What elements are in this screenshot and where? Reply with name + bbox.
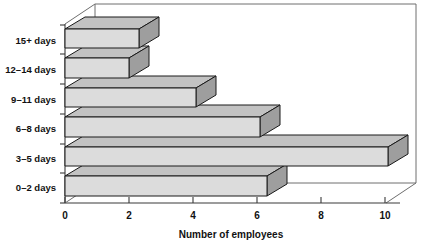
bar-3-5-days bbox=[65, 135, 408, 166]
x-axis-labels: 0 2 4 6 8 10 bbox=[62, 210, 391, 221]
bar-front-face bbox=[65, 147, 388, 166]
x-tick-label-0: 0 bbox=[62, 210, 68, 221]
category-label-3-5: 3–5 days bbox=[16, 153, 56, 164]
bar-front-face bbox=[65, 29, 139, 48]
bar-front-face bbox=[65, 58, 129, 78]
x-tick-label-8: 8 bbox=[318, 210, 324, 221]
y-axis-labels: 15+ days 12–14 days 9–11 days 6–8 days 3… bbox=[5, 35, 56, 193]
category-label-9-11: 9–11 days bbox=[11, 94, 56, 105]
bar-6-8-days bbox=[65, 105, 280, 137]
bar-front-face bbox=[65, 88, 196, 107]
x-tick-label-2: 2 bbox=[126, 210, 132, 221]
x-tick-label-6: 6 bbox=[254, 210, 260, 221]
category-label-15plus: 15+ days bbox=[16, 35, 56, 46]
bar-chart: 15+ days 12–14 days 9–11 days 6–8 days 3… bbox=[0, 0, 425, 243]
bar-front-face bbox=[65, 176, 267, 196]
category-label-6-8: 6–8 days bbox=[16, 123, 56, 134]
bar-12-14-days bbox=[65, 46, 149, 78]
category-label-0-2: 0–2 days bbox=[16, 182, 56, 193]
category-label-12-14: 12–14 days bbox=[5, 64, 56, 75]
x-axis-title: Number of employees bbox=[179, 229, 284, 240]
bar-9-11-days bbox=[65, 76, 216, 107]
chart-canvas: 15+ days 12–14 days 9–11 days 6–8 days 3… bbox=[0, 0, 425, 243]
bar-0-2-days bbox=[65, 164, 287, 196]
depth-edge-bottomright bbox=[386, 183, 416, 203]
x-tick-label-10: 10 bbox=[379, 210, 391, 221]
bar-front-face bbox=[65, 117, 260, 137]
bar-15-plus-days bbox=[65, 17, 159, 48]
x-axis-ticks bbox=[65, 197, 385, 203]
x-tick-label-4: 4 bbox=[190, 210, 196, 221]
